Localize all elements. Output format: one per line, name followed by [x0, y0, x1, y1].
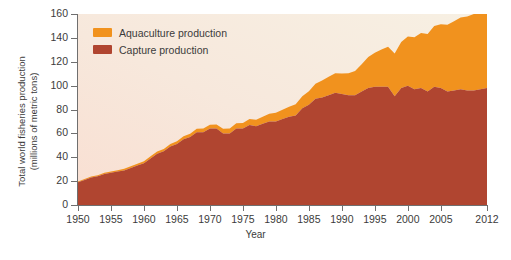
y-tick-label-text: 20	[8, 175, 68, 185]
y-tick-label: 160	[6, 8, 68, 18]
x-axis-line	[77, 205, 488, 206]
y-tick-label-text: 80	[8, 104, 68, 114]
chart-legend: Aquaculture production Capture productio…	[93, 25, 227, 59]
y-tick-label: 80	[6, 104, 68, 114]
y-tick-label: 140	[6, 32, 68, 42]
y-tick-label: 60	[6, 127, 68, 137]
x-tick	[78, 206, 79, 211]
legend-label-aquaculture: Aquaculture production	[119, 27, 227, 39]
x-tick-label-text: 2005	[418, 213, 464, 225]
legend-swatch-capture	[93, 45, 112, 54]
x-tick-label-text: 2012	[464, 213, 510, 225]
y-tick-label: 100	[6, 80, 68, 90]
y-tick-label: 40	[6, 151, 68, 161]
legend-label-capture: Capture production	[119, 44, 208, 56]
x-tick	[487, 206, 488, 211]
x-tick	[276, 206, 277, 211]
y-tick-label: 20	[6, 175, 68, 185]
x-tick	[111, 206, 112, 211]
x-tick	[144, 206, 145, 211]
x-tick	[210, 206, 211, 211]
y-tick-label-text: 160	[8, 8, 68, 18]
y-tick-label: 0	[6, 199, 68, 209]
x-tick	[408, 206, 409, 211]
x-tick	[441, 206, 442, 211]
x-tick	[342, 206, 343, 211]
y-tick-label: 120	[6, 56, 68, 66]
x-tick-label: 2012	[464, 213, 510, 225]
y-tick-label-text: 40	[8, 151, 68, 161]
y-tick-label-text: 100	[8, 80, 68, 90]
y-axis-title: Total world fisheries production (millio…	[16, 22, 39, 222]
x-tick	[375, 206, 376, 211]
x-tick	[177, 206, 178, 211]
x-tick	[309, 206, 310, 211]
y-axis-line	[77, 14, 78, 206]
y-tick-label-text: 0	[8, 199, 68, 209]
x-tick-label: 2005	[418, 213, 464, 225]
y-tick-label-text: 120	[8, 56, 68, 66]
legend-swatch-aquaculture	[93, 28, 112, 37]
y-tick-label-text: 140	[8, 32, 68, 42]
y-tick-label-text: 60	[8, 127, 68, 137]
legend-item-aquaculture: Aquaculture production	[93, 25, 227, 40]
x-tick	[243, 206, 244, 211]
legend-item-capture: Capture production	[93, 42, 227, 57]
fisheries-production-chart: Total world fisheries production (millio…	[0, 0, 511, 260]
x-axis-title: Year	[0, 229, 511, 240]
